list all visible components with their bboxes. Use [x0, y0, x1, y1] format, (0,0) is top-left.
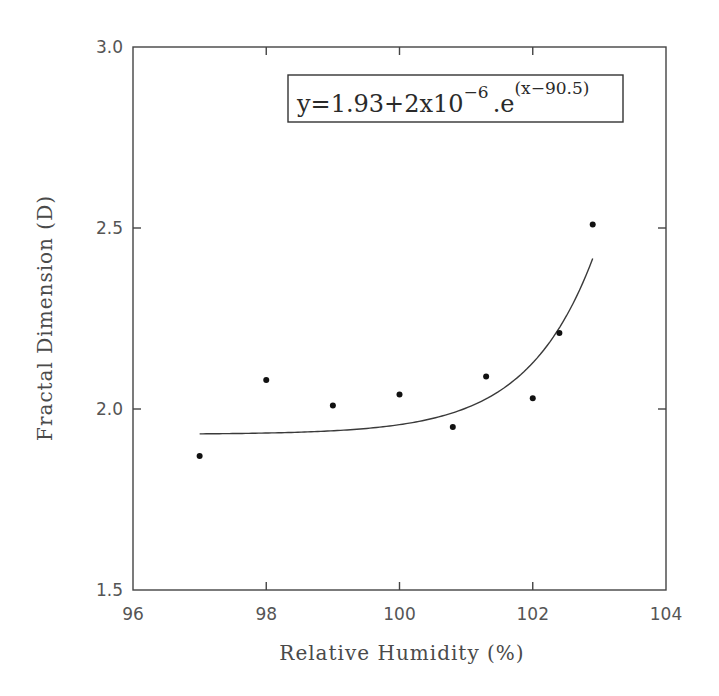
data-point: [530, 395, 536, 401]
y-axis-tick-labels: 1.5 2.0 2.5 3.0: [96, 37, 123, 600]
x-tick-label: 102: [517, 604, 549, 624]
equation-exponent-1: −6: [464, 82, 489, 102]
data-point: [197, 453, 203, 459]
fractal-dimension-chart: 96 98 100 102 104 1.5 2.0 2.5 3.0 y=1.93…: [0, 0, 719, 696]
data-point: [330, 402, 336, 408]
x-axis-label: Relative Humidity (%): [279, 641, 524, 665]
data-point: [450, 424, 456, 430]
y-tick-label: 2.0: [96, 399, 123, 419]
data-point: [556, 330, 562, 336]
x-tick-label: 98: [255, 604, 277, 624]
data-point: [263, 377, 269, 383]
y-axis-label: Fractal Dimension (D): [33, 195, 57, 441]
data-point: [483, 373, 489, 379]
equation-main: y=1.93+2x10: [296, 90, 464, 118]
x-axis-tick-labels: 96 98 100 102 104: [122, 604, 682, 624]
fit-curve: [200, 259, 593, 434]
data-point: [590, 221, 596, 227]
y-tick-label: 3.0: [96, 37, 123, 57]
data-points: [197, 221, 596, 459]
x-tick-label: 100: [383, 604, 415, 624]
axis-ticks: [133, 47, 666, 590]
equation-mid: .e: [493, 90, 515, 118]
x-tick-label: 96: [122, 604, 144, 624]
plot-frame: [133, 47, 666, 590]
data-point: [397, 392, 403, 398]
y-tick-label: 2.5: [96, 218, 123, 238]
equation-exponent-2: (x−90.5): [514, 78, 589, 98]
y-tick-label: 1.5: [96, 580, 123, 600]
x-tick-label: 104: [650, 604, 682, 624]
equation-annotation: y=1.93+2x10−6.e(x−90.5): [288, 75, 623, 122]
